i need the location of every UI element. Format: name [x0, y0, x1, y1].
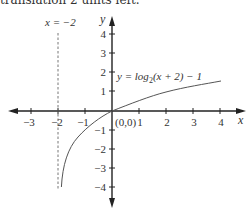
- svg-text:3: 3: [191, 116, 197, 128]
- origin-label: (0,0): [115, 116, 136, 129]
- svg-text:−1: −1: [77, 116, 89, 128]
- y-axis-label: y: [99, 12, 106, 26]
- svg-text:4: 4: [218, 116, 224, 128]
- svg-text:−3: −3: [23, 116, 35, 128]
- svg-text:−3: −3: [94, 162, 106, 174]
- svg-text:−4: −4: [94, 181, 106, 193]
- svg-text:−2: −2: [94, 143, 106, 155]
- y-axis-up-arrow-icon: [109, 16, 115, 26]
- graph: −3 −2 −1 1 2 3 4 4 3 2 1 −1 −2 −3 −4 y x…: [0, 0, 251, 213]
- svg-text:−1: −1: [94, 124, 106, 136]
- x-axis-label: x: [237, 113, 244, 127]
- asymptote-label: x = −2: [44, 16, 76, 28]
- svg-text:4: 4: [101, 28, 107, 40]
- x-axis-left-arrow-icon: [8, 108, 18, 114]
- svg-text:2: 2: [164, 116, 170, 128]
- log-curve: [61, 81, 221, 187]
- svg-text:1: 1: [137, 116, 143, 128]
- svg-text:1: 1: [101, 85, 107, 97]
- svg-text:−2: −2: [51, 116, 63, 128]
- svg-text:2: 2: [101, 66, 107, 78]
- curve-label: y = log2(x + 2) − 1: [116, 70, 202, 85]
- y-axis-down-arrow-icon: [109, 198, 115, 208]
- svg-text:3: 3: [101, 47, 107, 59]
